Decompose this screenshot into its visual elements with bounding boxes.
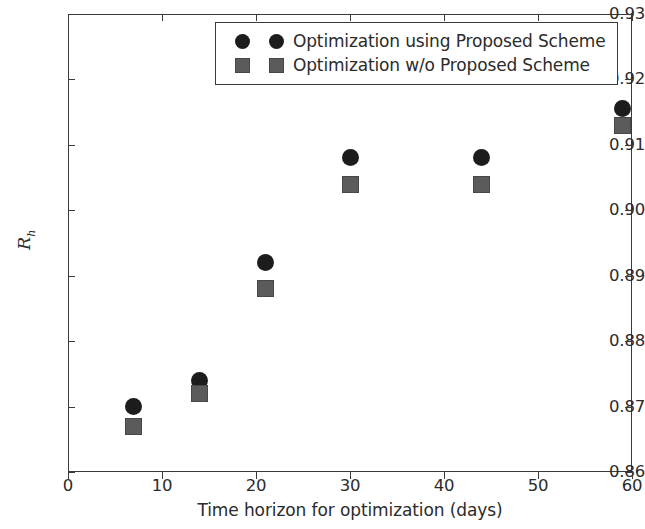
x-tick-mark [632,14,633,21]
y-tick-mark [68,341,75,342]
y-tick-mark [625,210,632,211]
y-tick-mark [68,210,75,211]
y-tick-mark [68,472,75,473]
data-point-circle-proposed [342,149,359,166]
legend-label-proposed: Optimization using Proposed Scheme [293,31,605,51]
y-axis-title-subscript: h [25,230,38,237]
x-tick-mark [68,472,69,479]
x-tick-label: 60 [602,478,645,495]
x-tick-mark [68,14,69,21]
legend-circle-marker-icon [235,34,250,49]
data-point-square-without [614,117,631,134]
x-tick-mark [256,472,257,479]
x-tick-mark [162,14,163,21]
y-axis-title: Rh [14,210,38,270]
data-point-square-without [125,418,142,435]
y-tick-mark [625,407,632,408]
legend-label-without: Optimization w/o Proposed Scheme [293,55,590,75]
y-tick-label: 0.88 [587,333,645,350]
x-tick-label: 0 [38,478,98,495]
legend-item-without: Optimization w/o Proposed Scheme [225,53,605,77]
legend-item-proposed: Optimization using Proposed Scheme [225,29,605,53]
y-tick-mark [68,145,75,146]
y-tick-mark [625,276,632,277]
data-point-circle-proposed [257,254,274,271]
data-point-square-without [257,280,274,297]
chart-legend: Optimization using Proposed Scheme Optim… [215,22,618,85]
x-tick-label: 30 [320,478,380,495]
y-axis-title-base: R [14,237,34,250]
data-point-square-without [342,176,359,193]
x-tick-mark [350,14,351,21]
x-tick-mark [162,472,163,479]
y-tick-mark [625,472,632,473]
legend-markers-proposed [225,34,293,49]
y-tick-mark [68,407,75,408]
x-tick-label: 50 [508,478,568,495]
y-tick-mark [625,145,632,146]
legend-circle-marker-icon [269,34,284,49]
data-point-square-without [191,385,208,402]
y-tick-mark [625,341,632,342]
legend-markers-without [225,58,293,73]
x-tick-label: 20 [226,478,286,495]
data-point-square-without [473,176,490,193]
y-tick-label: 0.91 [587,137,645,154]
x-tick-label: 40 [414,478,474,495]
x-tick-mark [256,14,257,21]
y-tick-label: 0.87 [587,399,645,416]
y-tick-mark [625,79,632,80]
legend-square-marker-icon [235,58,250,73]
y-tick-label: 0.90 [587,202,645,219]
x-tick-mark [632,472,633,479]
scatter-chart-figure: 0.860.870.880.890.900.910.920.93 0102030… [0,0,645,529]
x-tick-label: 10 [132,478,192,495]
y-tick-label: 0.89 [587,268,645,285]
y-tick-mark [68,79,75,80]
y-tick-label: 0.93 [587,6,645,23]
x-tick-mark [350,472,351,479]
x-tick-mark [444,472,445,479]
x-tick-mark [538,14,539,21]
legend-square-marker-icon [269,58,284,73]
y-tick-mark [625,14,632,15]
x-tick-mark [538,472,539,479]
y-tick-mark [68,276,75,277]
x-tick-mark [444,14,445,21]
y-tick-mark [68,14,75,15]
x-axis-title: Time horizon for optimization (days) [68,500,632,520]
